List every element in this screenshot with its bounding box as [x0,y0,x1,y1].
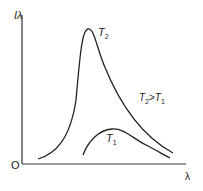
x-axis-label: λ [185,172,190,182]
origin-label: O [11,160,20,171]
y-axis-label: Iλ [14,10,22,21]
curve-t1 [83,129,170,158]
comparison-annotation: T2>T1 [139,93,165,105]
t2-label: T2 [98,27,109,40]
t1-label: T1 [106,133,117,146]
